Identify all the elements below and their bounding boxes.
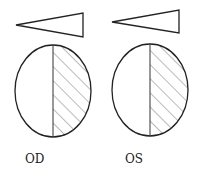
od-eye [15,13,91,137]
od-wedge-icon [16,13,83,37]
os-label: OS [125,152,143,166]
od-label: OD [25,152,44,166]
os-wedge-icon [112,10,179,33]
os-eye [112,10,188,136]
